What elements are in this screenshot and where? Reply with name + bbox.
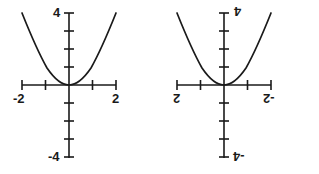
x-tick-label-left-neg2: -2 <box>13 92 25 105</box>
x-tick-label-right-left: 2 <box>173 92 180 105</box>
plot-left-svg <box>0 0 160 174</box>
x-tick-label-left-pos2: 2 <box>112 92 119 105</box>
x-tick-label-right-right: -2 <box>263 92 275 105</box>
plot-right-svg <box>160 0 319 174</box>
parabola-plot-right: 2 -2 4 -4 <box>160 0 319 174</box>
y-tick-label-right-bottom: -4 <box>233 150 245 163</box>
parabola-plot-left: -2 2 4 -4 <box>0 0 160 174</box>
y-tick-label-left-neg4: -4 <box>48 150 60 163</box>
figure-canvas: -2 2 4 -4 <box>0 0 319 174</box>
y-tick-label-left-pos4: 4 <box>53 6 60 19</box>
y-tick-label-right-top: 4 <box>234 5 241 18</box>
